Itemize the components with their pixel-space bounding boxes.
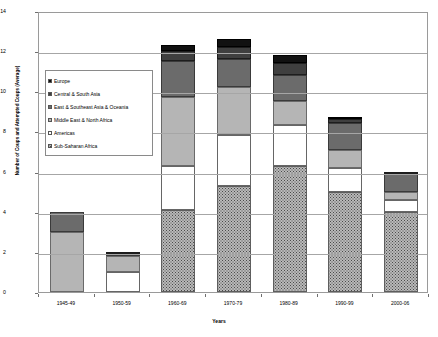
y-tick-label-6: 6 — [0, 170, 6, 175]
x-tick-label-1950-59: 1950-59 — [92, 300, 152, 306]
stacked-bar-chart: Number of Coups and Attempted Coups (Ave… — [0, 0, 438, 337]
bar-segment-americas-1980-89 — [273, 125, 307, 165]
legend-item-americas: Americas — [48, 126, 149, 139]
x-tick-mark-5 — [317, 294, 318, 297]
y-tick-label-12: 12 — [0, 50, 6, 55]
legend-item-east-southeast-asia-oceania: East & Southeast Asia & Oceania — [48, 100, 149, 113]
legend-label: East & Southeast Asia & Oceania — [54, 104, 128, 110]
gridline-12 — [39, 53, 427, 54]
legend-item-central-south-asia: Central & South Asia — [48, 87, 149, 100]
bar-segment-east-southeast-asia-oceania-2000-06 — [384, 174, 418, 192]
gridline-2 — [39, 254, 427, 255]
white-square-swatch — [48, 131, 52, 135]
x-tick-label-1945-49: 1945-49 — [36, 300, 96, 306]
y-tick-mark-10 — [35, 92, 38, 93]
black-square-swatch — [48, 79, 52, 83]
x-axis-title: Years — [0, 318, 438, 324]
bar-segment-middle-east-north-africa-1980-89 — [273, 101, 307, 125]
y-tick-label-0: 0 — [0, 290, 6, 295]
x-tick-mark-2 — [149, 294, 150, 297]
legend-label: Central & South Asia — [54, 91, 100, 97]
legend-label: Europe — [54, 78, 70, 84]
bar-segment-sub-saharan-africa-1980-89 — [273, 166, 307, 292]
bar-segment-east-southeast-asia-oceania-1960-69 — [161, 61, 195, 97]
legend-item-europe: Europe — [48, 74, 149, 87]
x-tick-mark-3 — [205, 294, 206, 297]
legend-item-sub-saharan-africa: Sub-Saharan Africa — [48, 139, 149, 152]
bar-segment-middle-east-north-africa-1945-49 — [50, 232, 84, 292]
bar-segment-middle-east-north-africa-1960-69 — [161, 97, 195, 165]
bar-segment-east-southeast-asia-oceania-1980-89 — [273, 75, 307, 101]
x-tick-mark-4 — [261, 294, 262, 297]
bar-segment-east-southeast-asia-oceania-1945-49 — [50, 212, 84, 232]
y-tick-label-2: 2 — [0, 250, 6, 255]
y-tick-mark-14 — [35, 12, 38, 13]
medium-gray-square-swatch — [48, 105, 52, 109]
gridline-6 — [39, 174, 427, 175]
light-gray-square-swatch — [48, 118, 52, 122]
y-tick-label-14: 14 — [0, 9, 6, 14]
bar-segment-americas-2000-06 — [384, 200, 418, 212]
bar-segment-middle-east-north-africa-1990-99 — [328, 150, 362, 168]
bar-segment-europe-1990-99 — [328, 117, 362, 119]
bar-segment-east-southeast-asia-oceania-1970-79 — [217, 59, 251, 87]
bar-segment-europe-1960-69 — [161, 45, 195, 51]
bar-segment-americas-1960-69 — [161, 166, 195, 210]
bar-segment-central-south-asia-1990-99 — [328, 119, 362, 123]
bar-segment-sub-saharan-africa-1960-69 — [161, 210, 195, 292]
y-axis-title: Number of Coups and Attempted Coups (Ave… — [15, 46, 20, 196]
legend-label: Americas — [54, 130, 75, 136]
y-tick-mark-12 — [35, 52, 38, 53]
bar-segment-middle-east-north-africa-1950-59 — [106, 256, 140, 272]
y-tick-label-10: 10 — [0, 90, 6, 95]
bar-segment-sub-saharan-africa-2000-06 — [384, 212, 418, 292]
y-tick-mark-8 — [35, 132, 38, 133]
bar-segment-americas-1950-59 — [106, 272, 140, 292]
bar-segment-europe-1970-79 — [217, 39, 251, 47]
y-tick-mark-6 — [35, 173, 38, 174]
x-tick-label-1980-89: 1980-89 — [259, 300, 319, 306]
x-tick-label-1960-69: 1960-69 — [147, 300, 207, 306]
speckled-square-swatch — [48, 144, 52, 148]
gridline-4 — [39, 214, 427, 215]
y-tick-mark-4 — [35, 213, 38, 214]
x-tick-label-1970-79: 1970-79 — [203, 300, 263, 306]
bar-segment-europe-1980-89 — [273, 55, 307, 63]
legend-item-middle-east-north-africa: Middle East & North Africa — [48, 113, 149, 126]
x-tick-label-1990-99: 1990-99 — [314, 300, 374, 306]
dark-gray-square-swatch — [48, 92, 52, 96]
x-tick-label-2000-06: 2000-06 — [370, 300, 430, 306]
legend-label: Middle East & North Africa — [54, 117, 112, 123]
y-tick-label-8: 8 — [0, 130, 6, 135]
x-tick-mark-0 — [38, 294, 39, 297]
legend-label: Sub-Saharan Africa — [54, 143, 97, 149]
x-tick-mark-1 — [94, 294, 95, 297]
chart-legend: Europe Central & South Asia East & South… — [45, 70, 153, 156]
bar-segment-middle-east-north-africa-2000-06 — [384, 192, 418, 200]
bar-segment-east-southeast-asia-oceania-1990-99 — [328, 123, 362, 149]
y-tick-mark-2 — [35, 253, 38, 254]
bar-segment-sub-saharan-africa-1970-79 — [217, 186, 251, 292]
x-tick-mark-6 — [372, 294, 373, 297]
bar-segment-americas-1990-99 — [328, 168, 362, 192]
bar-segment-middle-east-north-africa-1970-79 — [217, 87, 251, 135]
bar-segment-sub-saharan-africa-1990-99 — [328, 192, 362, 292]
y-tick-label-4: 4 — [0, 210, 6, 215]
bar-segment-americas-1970-79 — [217, 135, 251, 185]
bar-segment-central-south-asia-1980-89 — [273, 63, 307, 75]
x-tick-mark-end — [428, 294, 429, 297]
